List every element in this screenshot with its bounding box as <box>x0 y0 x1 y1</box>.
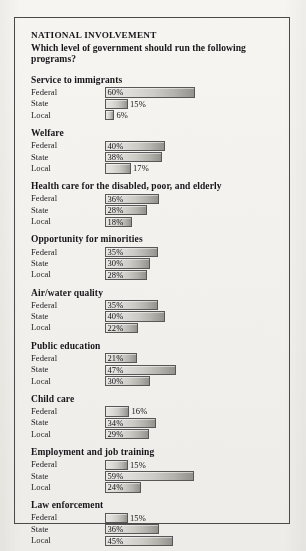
scanned-page: NATIONAL INVOLVEMENT Which level of gove… <box>0 0 306 551</box>
bar-row: State47% <box>31 364 279 375</box>
section-title: Law enforcement <box>31 499 279 511</box>
bar-value: 24% <box>108 482 124 492</box>
bar-value: 29% <box>108 429 124 439</box>
row-label-state: State <box>31 471 105 482</box>
section-title: Air/water quality <box>31 287 279 299</box>
bar-value: 40% <box>108 141 124 151</box>
bar-track: 40% <box>105 141 279 151</box>
row-label-state: State <box>31 258 105 269</box>
bar-row: Local28% <box>31 269 279 280</box>
bar-row: State40% <box>31 311 279 322</box>
bar-value: 6% <box>117 110 129 120</box>
row-label-federal: Federal <box>31 140 105 151</box>
program-section-employment-and-job-training: Employment and job trainingFederal15%Sta… <box>31 446 279 493</box>
row-label-state: State <box>31 205 105 216</box>
row-label-local: Local <box>31 216 105 227</box>
bar <box>105 406 129 416</box>
bar-value: 35% <box>108 247 124 257</box>
row-label-local: Local <box>31 322 105 333</box>
bar <box>105 163 131 173</box>
row-label-federal: Federal <box>31 353 105 364</box>
bar-track: 24% <box>105 482 279 492</box>
bar-value: 59% <box>108 471 124 481</box>
bar-track: 28% <box>105 205 279 215</box>
row-label-state: State <box>31 311 105 322</box>
row-label-federal: Federal <box>31 406 105 417</box>
chart-frame: NATIONAL INVOLVEMENT Which level of gove… <box>14 17 290 524</box>
bar-track: 40% <box>105 311 279 321</box>
row-label-local: Local <box>31 269 105 280</box>
row-label-federal: Federal <box>31 459 105 470</box>
bar-value: 38% <box>108 152 124 162</box>
bar-row: Federal15% <box>31 459 279 470</box>
section-title: Employment and job training <box>31 446 279 458</box>
bar-track: 15% <box>105 513 279 523</box>
bar-track: 30% <box>105 376 279 386</box>
program-section-public-education: Public educationFederal21%State47%Local3… <box>31 340 279 387</box>
bar-row: Federal60% <box>31 87 279 98</box>
bar-track: 17% <box>105 163 279 173</box>
program-section-air-water-quality: Air/water qualityFederal35%State40%Local… <box>31 287 279 334</box>
program-section-service-to-immigrants: Service to immigrantsFederal60%State15%L… <box>31 74 279 121</box>
bar-track: 45% <box>105 536 279 546</box>
row-label-local: Local <box>31 429 105 440</box>
row-label-state: State <box>31 98 105 109</box>
bar-value: 28% <box>108 270 124 280</box>
bar-row: Federal35% <box>31 246 279 257</box>
bar-row: Local29% <box>31 429 279 440</box>
bar-row: State59% <box>31 470 279 481</box>
bar-track: 29% <box>105 429 279 439</box>
row-label-federal: Federal <box>31 193 105 204</box>
bar-row: Local24% <box>31 482 279 493</box>
row-label-federal: Federal <box>31 87 105 98</box>
section-title: Public education <box>31 340 279 352</box>
bar-value: 36% <box>108 524 124 534</box>
bar-track: 35% <box>105 247 279 257</box>
program-section-opportunity-for-minorities: Opportunity for minoritiesFederal35%Stat… <box>31 233 279 280</box>
bar-row: Local17% <box>31 163 279 174</box>
bar-track: 15% <box>105 99 279 109</box>
bar-track: 36% <box>105 524 279 534</box>
bar-track: 28% <box>105 270 279 280</box>
program-sections: Service to immigrantsFederal60%State15%L… <box>31 74 279 547</box>
section-title: Opportunity for minorities <box>31 233 279 245</box>
bar-track: 36% <box>105 194 279 204</box>
bar-track: 16% <box>105 406 279 416</box>
section-title: Health care for the disabled, poor, and … <box>31 180 279 192</box>
row-label-local: Local <box>31 482 105 493</box>
program-section-child-care: Child careFederal16%State34%Local29% <box>31 393 279 440</box>
bar-row: Federal36% <box>31 193 279 204</box>
bar-row: Federal16% <box>31 406 279 417</box>
bar-value: 34% <box>108 418 124 428</box>
bar-track: 15% <box>105 460 279 470</box>
row-label-local: Local <box>31 535 105 546</box>
row-label-local: Local <box>31 163 105 174</box>
bar-value: 60% <box>108 87 124 97</box>
bar-row: Local30% <box>31 375 279 386</box>
bar-value: 18% <box>108 217 124 227</box>
bar <box>105 513 128 523</box>
bar-row: State38% <box>31 151 279 162</box>
row-label-state: State <box>31 524 105 535</box>
bar <box>105 460 128 470</box>
bar-row: State15% <box>31 98 279 109</box>
row-label-state: State <box>31 364 105 375</box>
row-label-local: Local <box>31 376 105 387</box>
bar-row: Federal35% <box>31 300 279 311</box>
section-title: Service to immigrants <box>31 74 279 86</box>
bar-value: 30% <box>108 376 124 386</box>
bar-value: 15% <box>130 460 146 470</box>
bar-row: State28% <box>31 205 279 216</box>
row-label-federal: Federal <box>31 512 105 523</box>
row-label-state: State <box>31 152 105 163</box>
bar-value: 36% <box>108 194 124 204</box>
bar-row: Local18% <box>31 216 279 227</box>
bar-row: Local45% <box>31 535 279 546</box>
bar-track: 21% <box>105 353 279 363</box>
bar-value: 17% <box>133 163 149 173</box>
bar-value: 45% <box>108 536 124 546</box>
bar-track: 22% <box>105 323 279 333</box>
section-title: Child care <box>31 393 279 405</box>
bar-track: 18% <box>105 217 279 227</box>
bar-track: 6% <box>105 110 279 120</box>
